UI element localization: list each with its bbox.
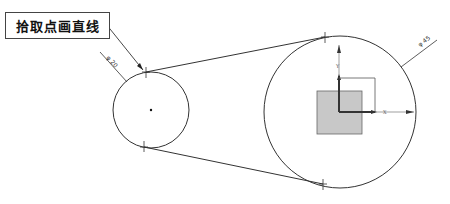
sketch-diagram: φ 20 φ 45 Y X 拾取点画直线: [0, 0, 450, 204]
y-arrow-icon: [337, 45, 341, 53]
callout-label: 拾取点画直线: [16, 16, 100, 35]
y-axis-label: Y: [335, 63, 340, 69]
lower-tangent-line[interactable]: [144, 147, 323, 184]
x-arrow-icon: [406, 110, 414, 114]
upper-tangent-line[interactable]: [146, 37, 325, 72]
small-dimension-label[interactable]: φ 20: [105, 54, 120, 70]
small-circle-center-point: [150, 109, 152, 111]
x-axis-label: X: [383, 109, 387, 115]
large-dimension-label[interactable]: φ 45: [416, 34, 432, 49]
tangent-marker-icon: [319, 179, 327, 190]
callout-box: 拾取点画直线: [5, 12, 110, 39]
